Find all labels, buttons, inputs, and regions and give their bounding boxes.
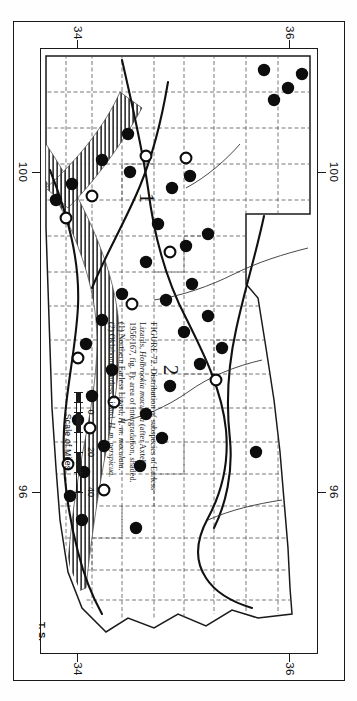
caption-line-2-pre: Lizards, — [138, 322, 147, 351]
scale-tick — [74, 472, 83, 473]
legend-entry-1: (1) Northern Earless Lizard, H. m. macul… — [115, 322, 126, 550]
record-open-dot — [164, 246, 175, 257]
region-label-2: 2 — [159, 364, 183, 375]
graticule-label-left-top: 36 — [284, 26, 296, 40]
record-open-dot — [72, 352, 83, 363]
scale-label: Scale of Miles — [63, 392, 73, 492]
record-open-dot — [126, 298, 137, 309]
caption-line-1-text: Distribution of subspecies of Earless — [149, 368, 158, 490]
scale-bar-outline — [76, 392, 81, 492]
scale-graphic — [74, 392, 83, 502]
scale-number-40: 40 — [86, 486, 96, 496]
map-scale-bar: 10 0 20 40 Sca — [63, 392, 96, 502]
scale-tick — [74, 492, 83, 493]
subspecies-name-1: H. m. maculata. — [117, 417, 126, 470]
scale-bar-segment — [76, 452, 80, 472]
region-label-1: 1 — [135, 192, 159, 203]
artist-initials: T. S. — [37, 622, 48, 641]
graticule-label-bottom-right: 96 — [17, 485, 29, 499]
record-open-dot — [180, 152, 191, 163]
scale-bar-segment — [76, 412, 80, 432]
caption-line-2: Lizards, Holbrookia maculata (after Axte… — [136, 322, 147, 550]
graticule-label-right-top: 36 — [284, 662, 296, 676]
scale-number-20: 20 — [86, 446, 96, 456]
caption-line-2-post: (after Axtell, — [138, 421, 147, 465]
subspecies-name-2: H. m. perspicua. — [106, 422, 115, 477]
figure-border-box: 100 96 100 96 36 34 36 34 — [13, 21, 345, 681]
caption-line-3: 1956:167, fig. 1); area of intergradatio… — [126, 322, 137, 550]
scale-number-10: 10 — [86, 390, 96, 400]
legend-entry-2: (2) Oklahoma Earless Lizard, H. m. persp… — [105, 322, 116, 550]
scale-bar-segment — [76, 392, 80, 402]
scale-tick — [74, 452, 83, 453]
figure-page: 100 96 100 96 36 34 36 34 — [0, 0, 357, 701]
record-open-dot — [140, 150, 151, 161]
figure-plate-rotated: 100 96 100 96 36 34 36 34 — [13, 21, 345, 681]
graticule-label-bottom-left: 100 — [17, 161, 29, 182]
scale-numbers: 10 0 20 40 — [84, 392, 96, 502]
legend-entry-1-text: (1) Northern Earless Lizard, — [117, 322, 126, 418]
record-open-dot — [86, 190, 97, 201]
figure-caption: FIGURE 72. Distribution of subspecies of… — [105, 322, 158, 550]
oklahoma-distribution-map: 1 2 — [38, 48, 318, 656]
legend-entry-2-text: (2) Oklahoma Earless Lizard, — [106, 322, 115, 422]
species-name: Holbrookia maculata — [138, 351, 147, 422]
scale-tick — [74, 402, 83, 403]
record-open-dot — [210, 374, 221, 385]
graticule-label-right-bottom: 34 — [72, 662, 84, 676]
figure-number: FIGURE 72. — [149, 322, 158, 366]
scale-number-0: 0 — [86, 409, 96, 414]
graticule-label-top-right: 96 — [328, 485, 340, 499]
caption-line-1: FIGURE 72. Distribution of subspecies of… — [147, 322, 158, 550]
graticule-label-left-bottom: 34 — [72, 26, 84, 40]
scale-tick — [74, 392, 83, 393]
graticule-label-top-left: 100 — [328, 161, 340, 182]
scale-tick — [74, 432, 83, 433]
record-open-dot — [60, 212, 71, 223]
scale-tick — [74, 412, 83, 413]
